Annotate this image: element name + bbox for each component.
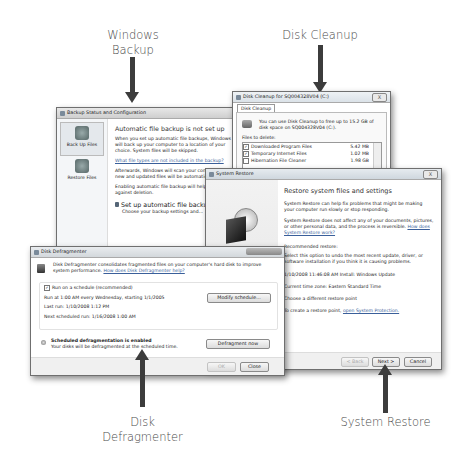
file-size: 1.02 MB — [350, 150, 369, 157]
file-checkbox[interactable] — [243, 158, 249, 164]
backup-app-icon — [60, 111, 65, 116]
backup-title: Backup Status and Configuration — [67, 110, 146, 116]
defrag-intro: Disk Defragmenter consolidates fragmente… — [53, 262, 273, 274]
restore-title: System Restore — [216, 171, 254, 177]
defrag-status-icon — [41, 340, 46, 345]
defragment-now-button[interactable]: Defragment now — [206, 339, 270, 349]
restore-content: Restore system files and settings System… — [284, 187, 434, 314]
list-item[interactable]: ✓Temporary Internet Files 1.02 MB — [243, 150, 381, 157]
disk-cleanup-icon — [242, 120, 252, 128]
window-controls[interactable] — [246, 248, 282, 255]
system-protection-link[interactable]: open System Protection. — [343, 308, 399, 313]
schedule-group: ✓Run on a schedule (recommended) Run at … — [39, 282, 278, 330]
sidebar-label: Restore Files — [60, 175, 104, 181]
different-restore-point-radio[interactable]: Choose a different restore point — [284, 296, 434, 302]
timezone-info: Current time zone: Eastern Standard Time — [284, 284, 434, 290]
file-checkbox[interactable]: ✓ — [243, 144, 249, 150]
label-disk-defragmenter: Disk Defragmenter — [95, 415, 190, 445]
backup-file-types-link[interactable]: What file types are not included in the … — [115, 158, 237, 164]
arrow-disk-cleanup — [318, 45, 323, 85]
backup-files-icon — [75, 126, 89, 140]
defrag-title: Disk Defragmenter — [41, 249, 87, 255]
arrow-disk-defragmenter — [140, 357, 145, 407]
defrag-help-link[interactable]: How does Disk Defragmenter help? — [103, 268, 184, 273]
backup-para1: When you set up automatic file backups, … — [115, 136, 237, 154]
sidebar-item-restore-files[interactable]: Restore Files — [60, 159, 104, 191]
label-line: Backup — [98, 43, 168, 58]
backup-titlebar: Backup Status and Configuration — [57, 108, 242, 119]
sidebar-label: Back Up Files — [61, 142, 103, 148]
restore-titlebar: System Restore X — [206, 169, 441, 180]
file-checkbox[interactable]: ✓ — [243, 151, 249, 157]
clock-monitor-icon — [224, 208, 258, 246]
modify-schedule-button[interactable]: Modify schedule... — [207, 293, 271, 303]
setup-label: Set up automatic file backup — [121, 201, 212, 208]
close-button[interactable]: Close — [240, 362, 269, 372]
next-run-text: Next scheduled run: 1/16/2008 1:00 AM — [44, 314, 136, 320]
back-button[interactable]: < Back — [341, 357, 369, 367]
create-text: To create a restore point, — [284, 308, 341, 313]
file-name: Temporary Internet Files — [251, 151, 307, 156]
file-name: Downloaded Program Files — [251, 144, 312, 149]
option-label: Recommended restore: — [284, 244, 338, 249]
restore-point-info: 1/10/2008 11:46:08 AM Install: Windows U… — [284, 272, 434, 278]
files-to-delete-label: Files to delete: — [242, 135, 276, 141]
arrow-system-restore — [383, 372, 388, 413]
label-windows-backup: Windows Backup — [98, 28, 168, 58]
restore-app-icon — [209, 172, 214, 177]
label-disk-cleanup: Disk Cleanup — [270, 28, 370, 43]
label-line: Defragmenter — [95, 430, 190, 445]
file-size: 1.98 GB — [351, 157, 369, 164]
cleanup-intro: You can use Disk Cleanup to free up to 1… — [259, 119, 379, 131]
disk-defragmenter-window: Disk Defragmenter Disk Defragmenter cons… — [30, 246, 285, 376]
label-system-restore: System Restore — [338, 415, 433, 430]
cleanup-titlebar: Disk Cleanup for SQ004328V04 (C:) X — [233, 92, 390, 103]
arrow-windows-backup — [130, 57, 135, 95]
list-item[interactable]: Hibernation File Cleaner 1.98 GB — [243, 157, 381, 164]
restore-files-icon — [75, 159, 89, 173]
status-desc: Your disks will be defragmented at the s… — [51, 344, 178, 350]
cleanup-app-icon — [236, 95, 241, 100]
checkbox-box: ✓ — [44, 285, 50, 291]
label-line: Disk — [95, 415, 190, 430]
defrag-titlebar: Disk Defragmenter — [31, 247, 284, 258]
checkbox-label: Run on a schedule (recommended) — [52, 285, 133, 290]
recommended-restore-radio[interactable]: Recommended restore: — [284, 244, 434, 250]
ok-button[interactable]: OK — [207, 362, 236, 372]
restore-heading: Restore system files and settings — [284, 187, 434, 196]
defrag-footer: OK Close — [31, 357, 284, 375]
run-on-schedule-checkbox[interactable]: ✓Run on a schedule (recommended) — [44, 285, 133, 291]
sidebar-item-back-up-files[interactable]: Back Up Files — [60, 122, 104, 156]
list-item[interactable]: ✓Downloaded Program Files 5.42 MB — [243, 143, 381, 150]
option1-desc: Select this option to undo the most rece… — [284, 253, 434, 265]
cleanup-title: Disk Cleanup for SQ004328V04 (C:) — [243, 94, 329, 100]
close-button[interactable]: X — [372, 93, 387, 102]
defrag-app-icon — [34, 250, 39, 255]
defrag-status: Scheduled defragmentation is enabled You… — [51, 338, 178, 350]
last-run-text: Last run: 1/10/2008 1:12 PM — [44, 304, 109, 310]
backup-sidebar: Back Up Files Restore Files — [57, 119, 108, 256]
file-size: 5.42 MB — [350, 143, 369, 150]
cancel-button[interactable]: Cancel — [404, 357, 432, 367]
defrag-icon — [37, 264, 45, 273]
shield-icon — [115, 202, 119, 207]
run-at-text: Run at 1:00 AM every Wednesday, starting… — [44, 295, 165, 301]
file-name: Hibernation File Cleaner — [251, 158, 306, 163]
create-restore-point: To create a restore point, open System P… — [284, 308, 434, 314]
backup-heading: Automatic file backup is not set up — [115, 124, 237, 133]
option-label: Choose a different restore point — [284, 296, 357, 301]
restore-para1: System Restore can help fix problems tha… — [284, 201, 434, 213]
label-line: Windows — [98, 28, 168, 43]
restore-para2: System Restore does not affect any of yo… — [284, 218, 434, 236]
close-button[interactable]: X — [423, 170, 438, 179]
